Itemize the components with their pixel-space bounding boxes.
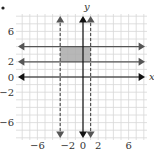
svg-text:2: 2 (8, 56, 14, 67)
svg-text:6: 6 (8, 26, 14, 37)
svg-text:0: 0 (8, 72, 14, 83)
tick-labels: −6−2026620−2−6 (0, 26, 132, 150)
svg-text:−6: −6 (0, 117, 14, 128)
svg-text:6: 6 (125, 140, 131, 150)
svg-text:−2: −2 (0, 87, 14, 98)
bullet-marker (1, 6, 4, 9)
svg-text:−2: −2 (60, 140, 75, 150)
shaded-region (60, 47, 90, 62)
svg-text:0: 0 (80, 140, 86, 150)
x-axis-label: x (149, 71, 154, 82)
coordinate-plane: −6−2026620−2−6 x y (0, 0, 154, 150)
svg-text:2: 2 (95, 140, 101, 150)
svg-text:−6: −6 (30, 140, 45, 150)
y-axis-label: y (83, 1, 90, 12)
